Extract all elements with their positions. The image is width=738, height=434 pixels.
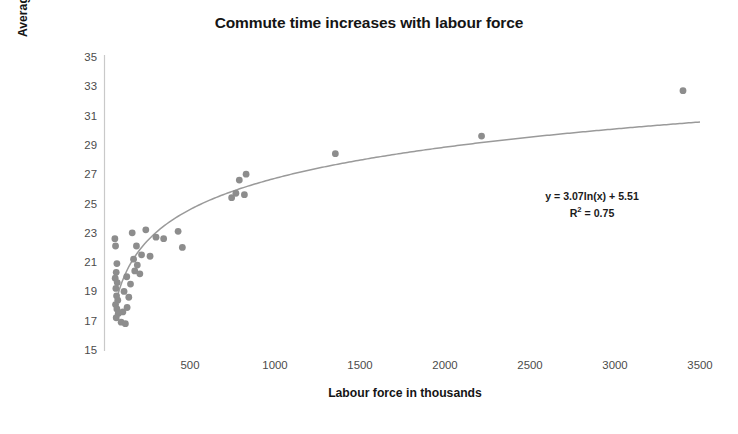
data-point [138, 251, 145, 258]
data-point [236, 177, 243, 184]
data-point [121, 288, 128, 295]
data-point [233, 190, 240, 197]
data-point [136, 270, 143, 277]
scatter-chart: Commute time increases with labour force… [0, 0, 738, 434]
r-squared-value: = 0.75 [582, 207, 615, 219]
data-point [134, 262, 141, 269]
data-point [243, 171, 250, 178]
data-point [124, 304, 131, 311]
data-point [123, 273, 130, 280]
data-point [142, 226, 149, 233]
x-axis-title: Labour force in thousands [105, 386, 705, 400]
data-point [680, 87, 687, 94]
data-point [147, 253, 154, 260]
data-point [175, 228, 182, 235]
data-point [241, 191, 248, 198]
data-point [114, 279, 121, 286]
data-point [478, 133, 485, 140]
trendline-equation-annotation: y = 3.07ln(x) + 5.51 R2 = 0.75 [512, 189, 672, 220]
data-point [112, 243, 119, 250]
data-point [332, 150, 339, 157]
data-point [133, 243, 140, 250]
data-point [111, 235, 118, 242]
r-squared-text: R2 = 0.75 [512, 203, 672, 220]
data-point [125, 294, 132, 301]
data-point [130, 256, 137, 263]
data-point [179, 244, 186, 251]
equation-text: y = 3.07ln(x) + 5.51 [512, 189, 672, 203]
data-point [129, 229, 136, 236]
data-point [153, 234, 160, 241]
data-point [114, 260, 121, 267]
data-point [113, 269, 120, 276]
data-point [122, 320, 129, 327]
data-point [160, 235, 167, 242]
data-point [127, 281, 134, 288]
data-point [112, 285, 119, 292]
